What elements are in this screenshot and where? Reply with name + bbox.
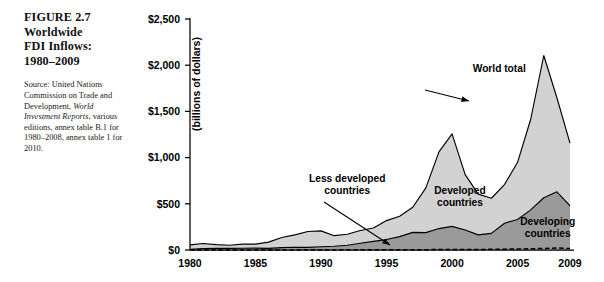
chart-annotation-label: World total xyxy=(473,63,526,74)
figure-caption-block: FIGURE 2.7 Worldwide FDI Inflows: 1980–2… xyxy=(24,10,128,155)
figure-title-line-3: 1980–2009 xyxy=(24,54,128,69)
fdi-inflows-area-chart: $0$500$1,000$1,500$2,000$2,500 198019851… xyxy=(128,0,604,282)
figure-title-line-2: FDI Inflows: xyxy=(24,39,128,54)
x-axis-tick-label: 2000 xyxy=(440,257,464,269)
chart-annotation-label: Developedcountries xyxy=(434,185,486,208)
chart-annotation-label: Developingcountries xyxy=(520,216,575,239)
y-axis-tick-group: $0$500$1,000$1,500$2,000$2,500 xyxy=(148,13,190,256)
x-axis-tick-label: 1985 xyxy=(244,257,268,269)
y-axis-tick-label: $1,000 xyxy=(148,151,180,163)
y-axis-tick-label: $1,500 xyxy=(148,105,180,117)
figure-number: FIGURE 2.7 xyxy=(24,10,128,25)
x-axis-tick-label: 1995 xyxy=(375,257,399,269)
y-axis-tick-label: $0 xyxy=(168,244,180,256)
x-axis-tick-label: 1980 xyxy=(178,257,202,269)
y-axis-tick-label: $500 xyxy=(157,198,181,210)
figure-page: FIGURE 2.7 Worldwide FDI Inflows: 1980–2… xyxy=(0,0,604,282)
x-axis-tick-group: 1980198519901995200020052009 xyxy=(178,257,582,269)
area-developed-countries xyxy=(190,55,570,249)
x-axis-tick-label: 2005 xyxy=(506,257,530,269)
y-axis-tick-label: $2,000 xyxy=(148,59,180,71)
x-axis-tick-label: 1990 xyxy=(309,257,333,269)
x-axis-tick-label: 2009 xyxy=(558,257,582,269)
chart-annotation-label: Less developedcountries xyxy=(309,173,385,196)
figure-source-note: Source: United Nations Commission on Tra… xyxy=(24,80,128,154)
y-axis-tick-label: $2,500 xyxy=(148,13,180,25)
source-prefix: Source: United Nations Commission on Tra… xyxy=(24,80,112,110)
figure-title-line-1: Worldwide xyxy=(24,25,128,40)
chart-container: (billions of dollars) $0$500$1,000$1,500… xyxy=(128,0,604,282)
figure-title: FIGURE 2.7 Worldwide FDI Inflows: 1980–2… xyxy=(24,10,128,68)
